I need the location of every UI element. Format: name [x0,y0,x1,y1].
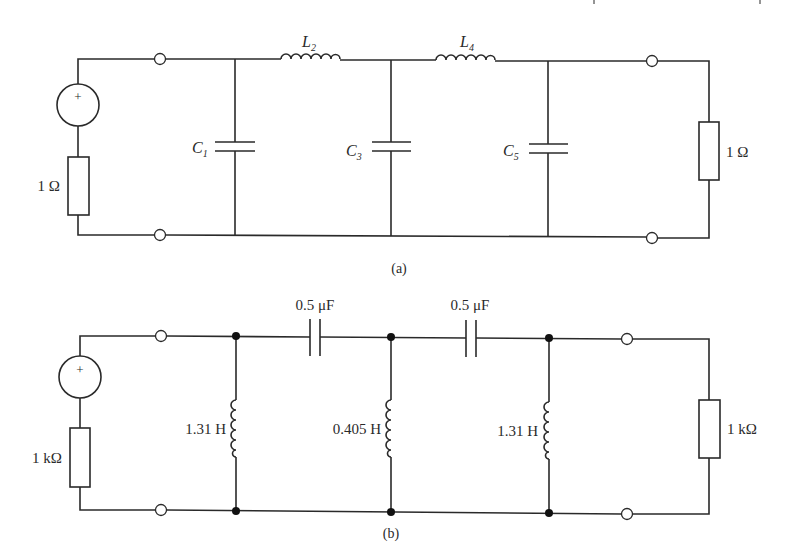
label-c1: C1 [192,139,208,159]
output-terminal-bottom [622,509,633,520]
capacitor-c5-icon [529,144,568,153]
inductor-l2-icon [281,54,340,59]
input-terminal-top [155,54,166,65]
figure-a-caption: (a) [391,261,407,277]
input-terminal-top [156,331,167,342]
source-resistor-icon [68,157,89,215]
shunt-inductor-1-label: 1.31 H [185,421,226,437]
shunt-inductor-2-icon [386,400,391,457]
figure-b-wires [80,336,709,514]
inductor-l4-icon [436,55,495,60]
output-terminal-bottom [647,233,658,244]
shunt-inductor-3-label: 1.31 H [497,423,538,439]
figure-a-wires [78,59,709,238]
shunt-inductor-3-icon [544,402,549,459]
source-resistor-label: 1 Ω [38,178,60,194]
capacitor-c3-icon [372,142,411,151]
series-capacitor-2-label: 0.5 μF [451,297,490,313]
voltage-source-icon: + [59,356,101,398]
load-resistor-label: 1 Ω [726,144,748,160]
voltage-source-icon: + [57,84,99,126]
series-capacitor-1-icon [310,319,320,356]
figure-b-highpass-ladder: + 1 kΩ 0.5 μF 0.5 μF [32,297,757,542]
label-c3: C3 [346,142,362,162]
input-terminal-bottom [155,230,166,241]
circuit-diagrams: + 1 Ω C1 L2 C3 L4 C5 [0,0,791,555]
label-l2: L2 [301,33,316,53]
load-resistor-icon [699,122,719,180]
series-capacitor-1-label: 0.5 μF [296,297,335,313]
figure-b-caption: (b) [383,526,400,542]
load-resistor-icon [699,400,720,458]
shunt-inductor-1-icon [231,400,236,457]
label-l4: L4 [459,33,474,53]
capacitor-c1-icon [215,142,255,151]
input-terminal-bottom [156,505,167,516]
series-capacitor-2-icon [466,320,476,357]
svg-text:+: + [76,362,83,377]
output-terminal-top [622,334,633,345]
source-resistor-icon [70,428,90,487]
figure-a-lowpass-ladder: + 1 Ω C1 L2 C3 L4 C5 [38,33,749,277]
svg-text:+: + [74,89,81,104]
load-resistor-label: 1 kΩ [727,421,757,437]
label-c5: C5 [503,142,519,162]
page-edge-marks [594,0,760,4]
shunt-inductor-2-label: 0.405 H [333,421,382,437]
output-terminal-top [647,56,658,67]
source-resistor-label: 1 kΩ [32,450,62,466]
